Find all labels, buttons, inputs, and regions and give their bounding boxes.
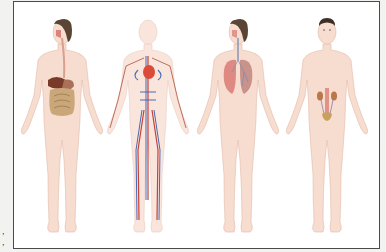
margin-marks: , ,: [2, 226, 5, 248]
figure-urinary-system: [286, 18, 367, 232]
body-systems-illustration: [0, 0, 386, 252]
margin-mark: ,: [2, 237, 5, 248]
figure-respiratory-system: [197, 19, 278, 232]
figure-circulatory-system: [107, 20, 188, 232]
figure-digestive-system: [21, 19, 102, 232]
margin-mark: ,: [2, 226, 5, 237]
